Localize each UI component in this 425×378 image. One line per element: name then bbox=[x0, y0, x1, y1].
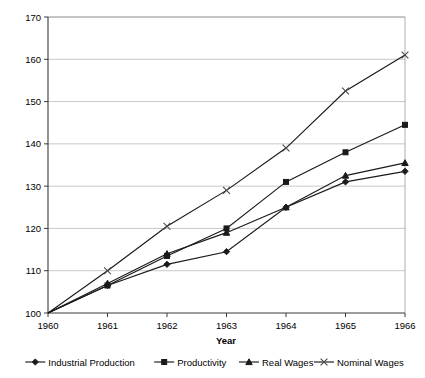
chart-background bbox=[0, 0, 425, 378]
square-marker-icon bbox=[162, 360, 167, 365]
y-tick-label-100: 100 bbox=[25, 308, 41, 319]
data-point-productivity-1965 bbox=[343, 150, 348, 155]
x-tick-label-1961: 1961 bbox=[97, 320, 118, 331]
y-tick-label-140: 140 bbox=[25, 138, 41, 149]
y-tick-label-160: 160 bbox=[25, 54, 41, 65]
x-tick-label-1960: 1960 bbox=[37, 320, 58, 331]
chart-legend: Industrial ProductionProductivityReal Wa… bbox=[25, 357, 404, 368]
legend-label-industrial-production: Industrial Production bbox=[48, 357, 135, 368]
x-axis-title: Year bbox=[216, 335, 236, 346]
data-point-productivity-1964 bbox=[284, 179, 289, 184]
data-point-productivity-1966 bbox=[403, 122, 408, 127]
y-tick-label-110: 110 bbox=[26, 265, 41, 276]
y-tick-label-170: 170 bbox=[25, 12, 41, 23]
legend-label-real-wages: Real Wages bbox=[262, 357, 314, 368]
legend-label-nominal-wages: Nominal Wages bbox=[337, 357, 404, 368]
line-chart-figure: 100110120130140150160170 196019611962196… bbox=[0, 0, 425, 378]
legend-label-productivity: Productivity bbox=[177, 357, 226, 368]
x-tick-label-1962: 1962 bbox=[156, 320, 177, 331]
chart-canvas: 100110120130140150160170 196019611962196… bbox=[0, 0, 425, 378]
x-tick-label-1965: 1965 bbox=[335, 320, 356, 331]
y-tick-label-130: 130 bbox=[25, 181, 41, 192]
x-tick-label-1963: 1963 bbox=[216, 320, 237, 331]
y-tick-label-120: 120 bbox=[25, 223, 41, 234]
x-tick-label-1964: 1964 bbox=[275, 320, 296, 331]
x-tick-label-1966: 1966 bbox=[394, 320, 415, 331]
y-tick-label-150: 150 bbox=[25, 96, 41, 107]
